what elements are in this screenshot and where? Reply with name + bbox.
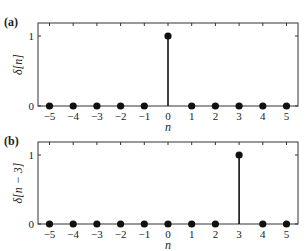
stem-marker <box>141 220 148 227</box>
x-tick-label: −2 <box>115 110 127 122</box>
x-tick-label: −4 <box>67 110 79 122</box>
stem-marker <box>188 102 195 109</box>
x-tick-label: 5 <box>284 228 290 240</box>
x-tick-label: −2 <box>115 228 127 240</box>
stem-marker <box>236 102 243 109</box>
stem-marker <box>236 151 243 158</box>
stem-marker <box>164 32 171 39</box>
stem-marker <box>46 220 53 227</box>
x-tick-label: 1 <box>189 228 195 240</box>
x-tick-label: 2 <box>213 110 219 122</box>
x-tick-label: −5 <box>44 228 56 240</box>
stem-marker <box>259 102 266 109</box>
y-tick-label: 1 <box>29 149 35 161</box>
y-tick-label: 0 <box>29 100 35 112</box>
stem-marker <box>212 102 219 109</box>
x-tick-label: −1 <box>138 110 150 122</box>
x-tick-label: −3 <box>91 228 103 240</box>
x-tick-label: −4 <box>67 228 79 240</box>
y-tick-label: 0 <box>29 218 35 230</box>
panel-label: (b) <box>4 134 19 148</box>
x-axis-label: n <box>165 238 171 251</box>
x-tick-label: 4 <box>260 228 266 240</box>
stem-plot-figure: −5−4−3−2−101234501(a)nδ[n]−5−4−3−2−10123… <box>0 0 308 251</box>
stem-marker <box>117 102 124 109</box>
stem-marker <box>259 220 266 227</box>
x-tick-label: 5 <box>284 110 290 122</box>
stem-marker <box>164 220 171 227</box>
x-tick-label: 2 <box>213 228 219 240</box>
y-axis-label: δ[n − 3] <box>11 162 25 203</box>
x-tick-label: −5 <box>44 110 56 122</box>
stem-marker <box>283 220 290 227</box>
stem-marker <box>283 102 290 109</box>
x-tick-label: 3 <box>236 110 242 122</box>
x-tick-label: 1 <box>189 110 195 122</box>
panel-label: (a) <box>4 15 18 29</box>
x-tick-label: −3 <box>91 110 103 122</box>
y-tick-label: 1 <box>29 30 35 42</box>
stem-marker <box>70 220 77 227</box>
x-tick-label: 4 <box>260 110 266 122</box>
stem-marker <box>93 220 100 227</box>
stem-marker <box>70 102 77 109</box>
stem-marker <box>141 102 148 109</box>
x-tick-label: −1 <box>138 228 150 240</box>
y-axis-label: δ[n] <box>11 54 25 75</box>
stem-marker <box>93 102 100 109</box>
axes-frame-b <box>38 142 298 224</box>
stem-marker <box>46 102 53 109</box>
x-axis-label: n <box>165 120 171 134</box>
stem-marker <box>117 220 124 227</box>
stem-marker <box>188 220 195 227</box>
stem-marker <box>212 220 219 227</box>
x-tick-label: 3 <box>236 228 242 240</box>
